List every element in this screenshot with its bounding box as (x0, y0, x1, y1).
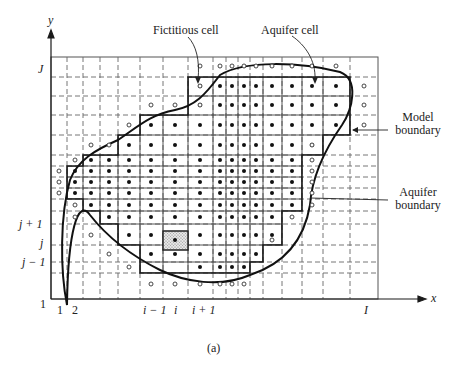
x-tick-I: I (364, 304, 368, 317)
aquifer-boundary-label: Aquifer boundary (388, 186, 448, 212)
annotation-arrows (188, 36, 388, 200)
fictitious-cell-nodes (57, 64, 366, 286)
x-tick-i-plus-1: i + 1 (192, 304, 215, 317)
model-boundary-label: Model boundary (388, 111, 448, 137)
y-tick-j-plus-1: j + 1 (19, 218, 42, 231)
model-boundary-label-line2: boundary (388, 124, 448, 137)
aquifer-boundary-label-line2: boundary (388, 199, 448, 212)
model-boundary (67, 77, 350, 273)
y-tick-j-minus-1: j − 1 (22, 256, 45, 269)
x-tick-i: i (174, 304, 177, 317)
y-axis-label: y (48, 14, 53, 27)
aquifer-boundary (62, 64, 352, 305)
fictitious-cell-label: Fictitious cell (153, 24, 219, 37)
aquifer-cell-label: Aquifer cell (261, 24, 319, 37)
finite-difference-grid-figure (0, 0, 455, 370)
y-tick-1: 1 (40, 298, 46, 311)
y-tick-j: j (40, 237, 43, 250)
y-tick-J: J (38, 63, 43, 76)
x-axis-label: x (431, 292, 436, 305)
x-tick-2: 2 (72, 304, 78, 317)
aquifer-cell-nodes (73, 84, 338, 269)
x-tick-1: 1 (57, 304, 63, 317)
x-tick-i-minus-1: i − 1 (143, 304, 166, 317)
figure-caption: (a) (207, 342, 220, 355)
